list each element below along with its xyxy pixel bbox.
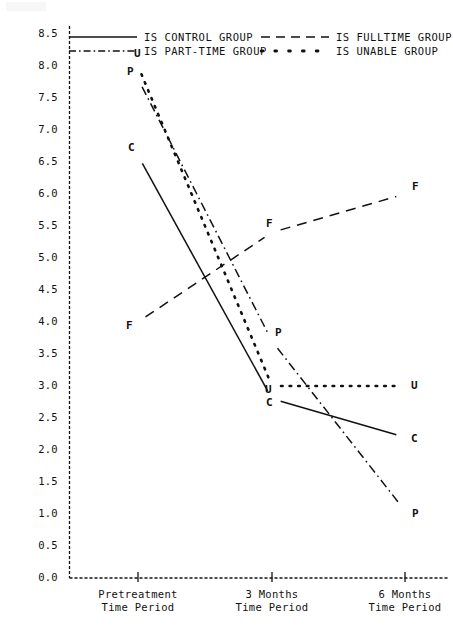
legend-key-solid bbox=[68, 32, 138, 42]
y-tick-label: 0.0 bbox=[20, 572, 58, 583]
y-tick-label: 8.5 bbox=[20, 28, 58, 39]
x-tick-label-2: 6 MonthsTime Period bbox=[335, 588, 453, 614]
series-line-parttime bbox=[278, 348, 400, 503]
y-tick-label: 3.5 bbox=[20, 348, 58, 359]
x-tick-label-line1: 3 Months bbox=[202, 588, 342, 601]
point-label-parttime-1: P bbox=[275, 327, 282, 338]
point-label-unable-1: U bbox=[265, 384, 272, 395]
x-tick-label-line2: Time Period bbox=[202, 601, 342, 614]
series-line-fulltime bbox=[281, 196, 397, 229]
legend-key-dashdot bbox=[68, 46, 138, 56]
point-label-parttime-0: P bbox=[127, 66, 134, 77]
y-tick-label: 7.5 bbox=[20, 92, 58, 103]
y-tick-label: 7.0 bbox=[20, 124, 58, 135]
point-label-fulltime-0: F bbox=[126, 320, 133, 331]
series-line-control bbox=[281, 401, 397, 434]
point-label-fulltime-2: F bbox=[412, 181, 419, 192]
y-tick-label: 2.0 bbox=[20, 444, 58, 455]
series-line-unable bbox=[141, 74, 268, 377]
point-label-fulltime-1: F bbox=[266, 218, 273, 229]
y-tick-label: 1.5 bbox=[20, 476, 58, 487]
y-tick-label: 4.0 bbox=[20, 316, 58, 327]
x-tick-label-1: 3 MonthsTime Period bbox=[202, 588, 342, 614]
point-label-control-2: C bbox=[411, 433, 418, 444]
point-label-control-0: C bbox=[128, 142, 135, 153]
legend-entry-0: IS CONTROL GROUP bbox=[68, 31, 253, 43]
legend-key-dashed bbox=[260, 32, 330, 42]
legend-label: IS CONTROL GROUP bbox=[144, 31, 253, 43]
legend-entry-1: IS FULLTIME GROUP bbox=[260, 31, 452, 43]
y-tick-label: 0.5 bbox=[20, 540, 58, 551]
point-label-parttime-2: P bbox=[412, 508, 419, 519]
legend-label: IS PART-TIME GROUP bbox=[144, 45, 267, 57]
x-tick-label-line2: Time Period bbox=[335, 601, 453, 614]
series-layer bbox=[141, 74, 399, 503]
point-label-unable-2: U bbox=[411, 380, 418, 391]
series-line-fulltime bbox=[145, 237, 264, 317]
x-tick-label-line2: Time Period bbox=[68, 601, 208, 614]
y-tick-label: 5.5 bbox=[20, 220, 58, 231]
x-tick-label-0: PretreatmentTime Period bbox=[68, 588, 208, 614]
legend-key-dotted bbox=[260, 46, 330, 56]
legend-entry-2: IS PART-TIME GROUP bbox=[68, 45, 267, 57]
chart-plot-area bbox=[0, 0, 453, 636]
chart-canvas: 8.58.07.57.06.56.05.55.04.54.03.53.02.52… bbox=[0, 0, 453, 636]
y-tick-label: 6.0 bbox=[20, 188, 58, 199]
y-tick-label: 5.0 bbox=[20, 252, 58, 263]
legend-label: IS FULLTIME GROUP bbox=[336, 31, 452, 43]
point-label-control-1: C bbox=[266, 397, 273, 408]
y-tick-label: 4.5 bbox=[20, 284, 58, 295]
x-tick-label-line1: Pretreatment bbox=[68, 588, 208, 601]
y-tick-label: 6.5 bbox=[20, 156, 58, 167]
y-tick-label: 1.0 bbox=[20, 508, 58, 519]
x-tick-label-line1: 6 Months bbox=[335, 588, 453, 601]
y-tick-label: 8.0 bbox=[20, 60, 58, 71]
legend-label: IS UNABLE GROUP bbox=[336, 45, 438, 57]
y-tick-label: 3.0 bbox=[20, 380, 58, 391]
legend-entry-3: IS UNABLE GROUP bbox=[260, 45, 438, 57]
y-tick-label: 2.5 bbox=[20, 412, 58, 423]
